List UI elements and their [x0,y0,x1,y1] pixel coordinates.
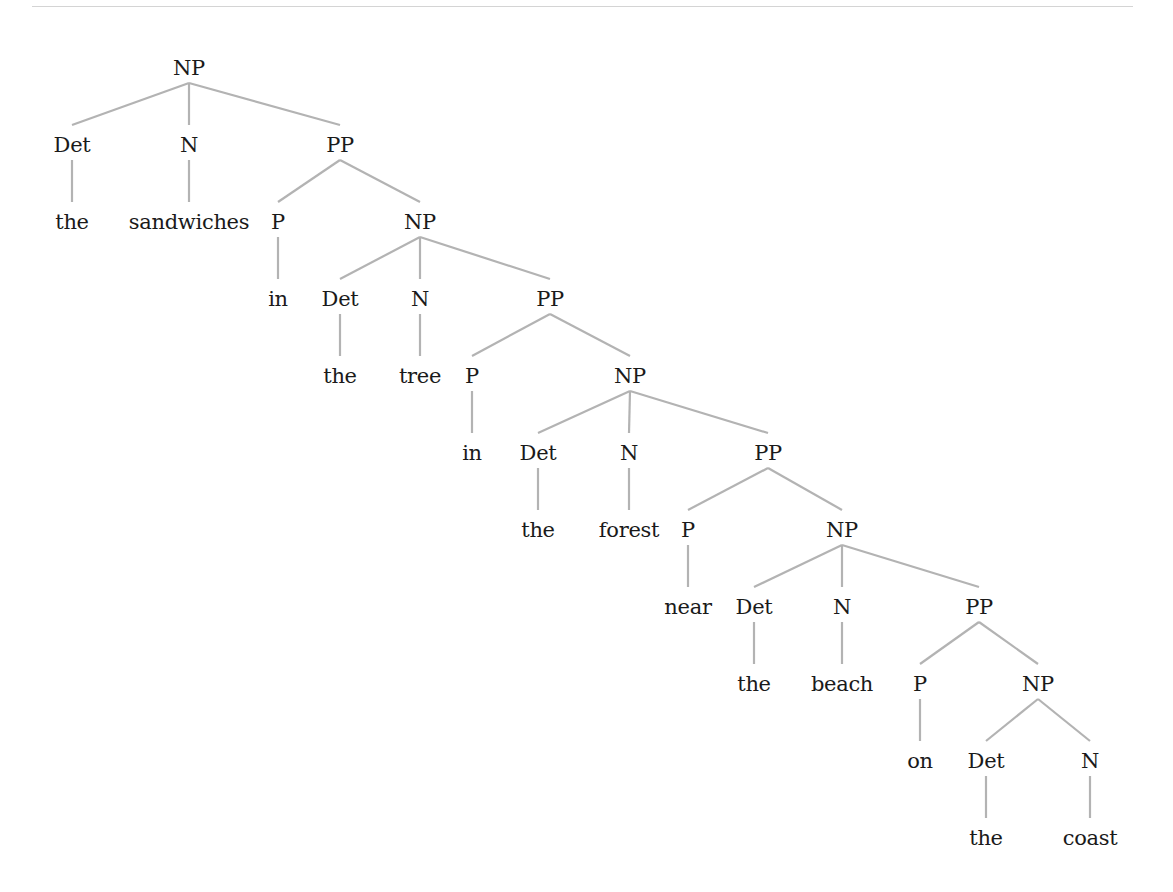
tree-node-word-in: in [268,287,288,311]
tree-node-word-the: the [323,364,357,388]
tree-node-word-sandwiches: sandwiches [129,210,249,234]
tree-edge [979,622,1038,664]
tree-node-phrase-np: NP [614,364,646,388]
tree-node-phrase-np: NP [404,210,436,234]
tree-node-category-det: Det [54,133,91,157]
tree-edge [340,160,420,202]
tree-edge [72,83,189,125]
tree-edge [472,314,550,356]
tree-node-phrase-pp: PP [536,287,564,311]
tree-edge [754,545,842,587]
tree-node-word-near: near [664,595,711,619]
tree-node-word-the: the [969,826,1003,850]
tree-node-phrase-pp: PP [965,595,993,619]
tree-edge [550,314,630,356]
tree-node-phrase-pp: PP [754,441,782,465]
tree-edge [842,545,979,587]
tree-node-phrase-pp: PP [326,133,354,157]
tree-edge [1038,699,1090,741]
tree-edge [340,237,420,279]
tree-edge [688,468,768,510]
tree-node-word-the: the [55,210,89,234]
tree-edge [420,237,550,279]
tree-node-category-n: N [620,441,638,465]
tree-edge [630,391,768,433]
tree-node-category-p: P [681,518,695,542]
tree-node-category-det: Det [736,595,773,619]
tree-node-word-beach: beach [811,672,873,696]
tree-node-word-in: in [462,441,482,465]
tree-node-category-det: Det [322,287,359,311]
tree-edge [538,391,630,433]
tree-node-category-det: Det [968,749,1005,773]
tree-node-word-on: on [907,749,933,773]
tree-edge [278,160,340,202]
tree-node-word-forest: forest [599,518,659,542]
tree-node-word-tree: tree [399,364,441,388]
tree-node-word-the: the [737,672,771,696]
tree-node-word-the: the [521,518,555,542]
tree-edge [189,83,340,125]
tree-node-category-n: N [180,133,198,157]
tree-node-word-coast: coast [1063,826,1118,850]
tree-node-phrase-np: NP [173,56,205,80]
tree-node-category-p: P [271,210,285,234]
tree-node-category-det: Det [520,441,557,465]
tree-node-category-n: N [1081,749,1099,773]
tree-edge [920,622,979,664]
tree-node-category-n: N [833,595,851,619]
tree-edge [629,391,630,433]
tree-node-phrase-np: NP [1022,672,1054,696]
tree-node-phrase-np: NP [826,518,858,542]
tree-node-category-p: P [913,672,927,696]
syntax-tree: NPDetNPPthesandwichesPNPinDetNPPthetreeP… [0,0,1173,892]
tree-edge [768,468,842,510]
tree-node-category-p: P [465,364,479,388]
tree-edge [986,699,1038,741]
tree-node-category-n: N [411,287,429,311]
